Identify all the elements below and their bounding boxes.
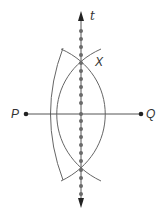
point-q: [139, 112, 144, 117]
label-x: X: [94, 55, 104, 69]
arrow-down-icon: [78, 198, 84, 208]
dots-on-line-t: [79, 29, 83, 196]
construction-diagram: t X P Q: [0, 0, 163, 219]
label-p: P: [11, 107, 19, 121]
label-t: t: [90, 9, 95, 23]
arrow-up-icon: [78, 11, 84, 21]
label-q: Q: [146, 107, 155, 121]
point-p: [24, 112, 29, 117]
